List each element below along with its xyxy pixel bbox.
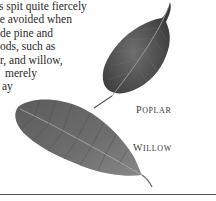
page-divider bbox=[0, 194, 216, 195]
willow-caption-rest: illow bbox=[143, 144, 172, 153]
willow-caption-initial: W bbox=[133, 142, 143, 153]
poplar-caption: Poplar bbox=[136, 104, 171, 115]
poplar-caption-rest: oplar bbox=[142, 106, 171, 115]
willow-caption: Willow bbox=[133, 142, 172, 153]
poplar-leaf-icon bbox=[90, 0, 180, 100]
